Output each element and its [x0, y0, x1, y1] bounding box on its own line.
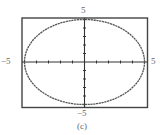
figure-caption: (c): [77, 122, 87, 131]
y-max-label: 5: [81, 6, 86, 15]
x-max-label: 5: [151, 57, 156, 66]
x-min-label: −5: [1, 57, 11, 66]
y-min-label: −5: [77, 109, 87, 118]
